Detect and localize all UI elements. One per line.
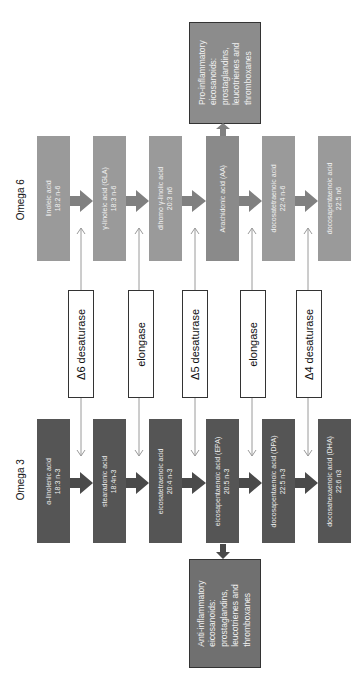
o3-6-formula: 22:6 n3 [335,436,344,527]
anti-inflammatory-box: Anti-inflammatory eicosanoids: prostagla… [189,559,261,668]
arrow-right-icon [126,472,149,494]
o3-2-name: stearadonic acid [100,456,109,507]
o3-3-formula: 20:4 n-3 [166,448,175,514]
o3-5-formula: 22:5 n-3 [279,435,288,527]
omega3-box-5: docosapentaenoic acid (DPA)22:5 n-3 [262,419,295,543]
o3-2-formula: 18:4n-3 [110,456,119,507]
o3-4-name: eicosapentaenoic acid (EPA) [213,436,222,525]
anti-line-2: eicosanoids: [208,580,219,646]
o3-1-name: α-linolenic acid [44,458,53,504]
anti-line-5: thromboxanes [242,580,253,646]
omega3-box-1: α-linolenic acid18:3 n-3 [37,419,70,543]
arrow-right-icon [295,472,318,494]
anti-line-3: prostaglandins, [219,580,230,646]
o3-6-name: docosahexaenoic acid (DHA) [325,436,334,527]
omega3-box-3: eicosatetraenoic acid20:4 n-3 [149,419,182,543]
omega3-box-2: stearadonic acid18:4n-3 [93,419,126,543]
anti-line-4: leucotrienes and [231,580,242,646]
enzyme-connector-lines [0,0,362,696]
arrow-right-icon [239,472,262,494]
o3-3-name: eicosatetraenoic acid [156,448,165,514]
arrow-down-icon [216,544,230,559]
omega3-box-6: docosahexaenoic acid (DHA)22:6 n3 [318,419,351,543]
anti-line-1: Anti-inflammatory [196,580,207,646]
arrow-right-icon [70,472,93,494]
o3-4-formula: 20:5 n-3 [223,436,232,525]
o3-1-formula: 18:3 n-3 [54,458,63,504]
arrow-right-icon [182,472,206,494]
omega3-box-4: eicosapentaenoic acid (EPA)20:5 n-3 [206,419,239,543]
